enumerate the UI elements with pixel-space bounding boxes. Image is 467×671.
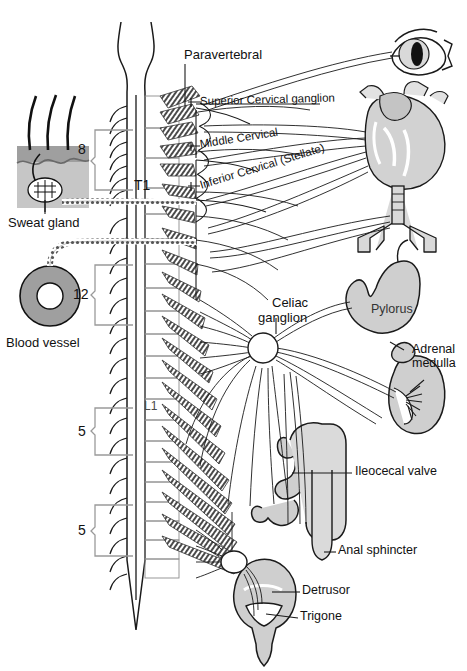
label-trigone: Trigone bbox=[300, 610, 342, 623]
label-anal-sphincter: Anal sphincter bbox=[338, 544, 417, 557]
segment-marker-l1: L1 bbox=[144, 400, 157, 413]
segment-count-cervical: 8 bbox=[78, 142, 86, 157]
heart-illustration bbox=[360, 82, 448, 190]
segment-count-lumbar: 5 bbox=[78, 424, 86, 439]
label-pylorus: Pylorus bbox=[371, 303, 413, 316]
segment-marker-t1: T1 bbox=[134, 178, 150, 193]
dorsal-rootlets bbox=[110, 106, 127, 590]
label-celiac-ganglion-line1: Celiac bbox=[272, 296, 308, 310]
label-paravertebral: Paravertebral bbox=[184, 48, 262, 62]
blood-vessel-illustration bbox=[20, 266, 80, 326]
label-ileocecal-valve: Ileocecal valve bbox=[355, 465, 437, 478]
eye-illustration bbox=[390, 29, 452, 75]
intestine-illustration bbox=[252, 423, 346, 560]
stomach-illustration bbox=[346, 240, 420, 333]
bladder-illustration bbox=[234, 559, 296, 666]
label-adrenal-medulla-line2: medulla bbox=[412, 357, 456, 370]
segment-count-sacral: 5 bbox=[78, 523, 86, 538]
segment-count-thoracic: 12 bbox=[73, 287, 89, 302]
label-detrusor: Detrusor bbox=[302, 584, 350, 597]
label-adrenal-medulla-line1: Adrenal bbox=[412, 343, 455, 356]
figure-canvas: Paravertebral Superior Cervical ganglion… bbox=[0, 0, 467, 671]
label-blood-vessel: Blood vessel bbox=[6, 336, 80, 350]
label-celiac-ganglion-line2: ganglion bbox=[258, 311, 307, 325]
label-sweat-gland: Sweat gland bbox=[8, 216, 80, 230]
